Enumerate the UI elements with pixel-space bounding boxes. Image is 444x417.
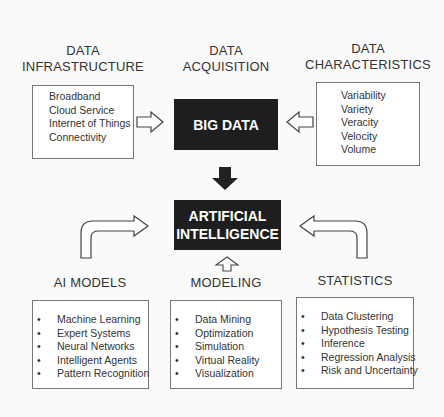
list-item: Virtual Reality — [171, 354, 281, 368]
heading-data-acquisition: DATA ACQUISITION — [164, 43, 288, 75]
ai-models-list: Machine Learning Expert Systems Neural N… — [33, 313, 148, 381]
statistics-list: Data Clustering Hypothesis Testing Infer… — [297, 310, 413, 378]
ai-models-box: Machine Learning Expert Systems Neural N… — [32, 300, 149, 389]
heading-line: CHARACTERISTICS — [300, 57, 436, 73]
arrow-up-icon — [215, 256, 239, 272]
heading-line: DATA — [164, 43, 288, 59]
arrow-left-icon — [286, 111, 314, 133]
list-item: Optimization — [171, 327, 281, 341]
list-item: Neural Networks — [33, 340, 148, 354]
heading-ai-models: AI MODELS — [32, 275, 148, 291]
heading-statistics: STATISTICS — [296, 273, 414, 289]
ai-label-line: INTELLIGENCE — [176, 225, 279, 243]
list-item: Inference — [297, 337, 413, 351]
list-item: Data Mining — [171, 313, 281, 327]
big-data-box: BIG DATA — [174, 99, 278, 150]
heading-data-characteristics: DATA CHARACTERISTICS — [300, 41, 436, 73]
list-item: Broadband — [49, 90, 133, 104]
modeling-box: Data Mining Optimization Simulation Virt… — [170, 300, 282, 389]
list-item: Variability — [341, 89, 419, 103]
list-item: Cloud Service — [49, 104, 133, 118]
bent-arrow-left-icon — [298, 215, 368, 259]
list-item: Visualization — [171, 367, 281, 381]
arrow-down-icon — [211, 167, 239, 191]
list-item: Hypothesis Testing — [297, 324, 413, 338]
list-item: Internet of Things — [49, 117, 133, 131]
infrastructure-list: Broadband Cloud Service Internet of Thin… — [49, 90, 133, 144]
list-item: Intelligent Agents — [33, 354, 148, 368]
list-item: Pattern Recognition — [33, 367, 148, 381]
infrastructure-box: Broadband Cloud Service Internet of Thin… — [32, 85, 134, 159]
ai-label-line: ARTIFICIAL — [189, 207, 267, 225]
arrow-right-icon — [136, 111, 164, 133]
characteristics-list: Variability Variety Veracity Velocity Vo… — [341, 89, 419, 157]
heading-line: DATA — [300, 41, 436, 57]
list-item: Data Clustering — [297, 310, 413, 324]
heading-line: ACQUISITION — [164, 59, 288, 75]
list-item: Veracity — [341, 116, 419, 130]
list-item: Regression Analysis — [297, 351, 413, 365]
artificial-intelligence-box: ARTIFICIAL INTELLIGENCE — [174, 200, 281, 250]
bent-arrow-right-icon — [80, 215, 150, 259]
heading-data-infrastructure: DATA INFRASTRUCTURE — [20, 43, 146, 75]
list-item: Risk and Uncertainty — [297, 364, 413, 378]
heading-line: DATA — [20, 43, 146, 59]
list-item: Connectivity — [49, 131, 133, 145]
list-item: Machine Learning — [33, 313, 148, 327]
big-data-label: BIG DATA — [193, 116, 259, 134]
list-item: Simulation — [171, 340, 281, 354]
list-item: Variety — [341, 103, 419, 117]
statistics-box: Data Clustering Hypothesis Testing Infer… — [296, 297, 414, 389]
list-item: Expert Systems — [33, 327, 148, 341]
list-item: Volume — [341, 143, 419, 157]
heading-modeling: MODELING — [170, 275, 282, 291]
characteristics-box: Variability Variety Veracity Velocity Vo… — [316, 82, 420, 166]
list-item: Velocity — [341, 130, 419, 144]
modeling-list: Data Mining Optimization Simulation Virt… — [171, 313, 281, 381]
heading-line: INFRASTRUCTURE — [20, 59, 146, 75]
